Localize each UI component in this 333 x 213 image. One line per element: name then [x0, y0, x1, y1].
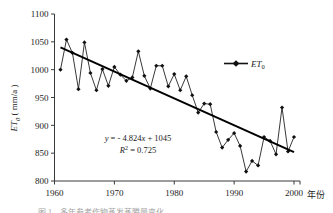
eq-body: = - 4.824 — [111, 133, 143, 143]
y-tick-label: 950 — [35, 93, 49, 103]
x-axis-title: 年份 — [307, 189, 325, 200]
y-tick-label: 800 — [35, 176, 49, 186]
x-tick-label: 1980 — [165, 188, 184, 198]
figure-container: 800850900950100010501100 196019701980199… — [0, 0, 333, 213]
y-tick-label: 900 — [35, 121, 49, 131]
x-tick-label: 1960 — [46, 188, 65, 198]
regression-equation-text: y = - 4.824x + 1045 — [104, 133, 172, 143]
r-squared-text: R2 = 0.725 — [119, 145, 156, 155]
y-axis-title-unit: ( mm/a ) — [9, 84, 19, 115]
y-tick-label: 1100 — [31, 9, 49, 19]
x-tick-label: 1970 — [105, 188, 124, 198]
y-tick-label: 1050 — [31, 37, 50, 47]
eq-intercept: + 1045 — [147, 133, 171, 143]
r2-value: = 0.725 — [130, 145, 156, 155]
y-tick-label: 850 — [35, 148, 49, 158]
figure-caption: 图 1 多年参考作物蒸发蒸腾量变化 — [38, 206, 298, 213]
legend-label-sub: 0 — [262, 63, 265, 70]
y-tick-label: 1000 — [31, 65, 50, 75]
x-tick-label: 2000 — [285, 188, 304, 198]
svg-text:ET0 ( mm/a ): ET0 ( mm/a ) — [9, 84, 21, 132]
x-tick-label: 1990 — [225, 188, 244, 198]
et0-trend-chart: 800850900950100010501100 196019701980199… — [0, 0, 333, 213]
y-axis-title: ET0 ( mm/a ) — [9, 84, 21, 132]
